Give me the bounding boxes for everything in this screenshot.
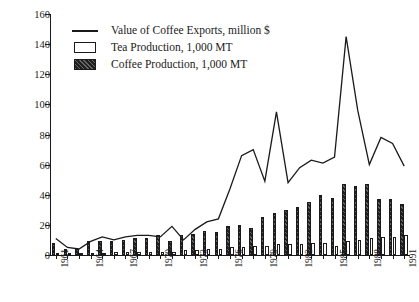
x-tick-label: 1988	[373, 249, 383, 268]
x-tick	[91, 255, 92, 259]
x-tick-label: 1991	[408, 249, 418, 268]
x-tick	[335, 255, 336, 259]
x-tick	[253, 255, 254, 259]
x-tick-label: 1970	[164, 249, 174, 268]
x-tick-label: 1964	[95, 249, 105, 268]
x-tick-label: 1967	[129, 249, 139, 268]
x-tick	[195, 255, 196, 259]
x-tick	[393, 255, 394, 259]
x-tick-label: 1979	[269, 249, 279, 268]
x-tick	[404, 255, 405, 259]
x-tick	[114, 255, 115, 259]
x-tick	[300, 255, 301, 259]
y-tick-label: 120	[34, 69, 50, 80]
x-tick-label: 1973	[199, 249, 209, 268]
legend-item-coffee-production: Coffee Production, 1,000 MT	[68, 56, 270, 73]
legend-item-coffee-exports: Value of Coffee Exports, million $	[68, 22, 270, 39]
legend-label-coffee-exports: Value of Coffee Exports, million $	[111, 22, 270, 39]
chart-legend: Value of Coffee Exports, million $ Tea P…	[68, 22, 270, 73]
y-tick-label: 60	[40, 159, 51, 170]
y-tick-label: 100	[34, 99, 50, 110]
x-tick-label: 1985	[339, 249, 349, 268]
y-tick-label: 140	[34, 39, 50, 50]
hatched-box-key-icon	[68, 59, 102, 70]
legend-item-tea-production: Tea Production, 1,000 MT	[68, 39, 270, 56]
y-tick-label: 80	[40, 129, 51, 140]
x-tick	[184, 255, 185, 259]
x-tick	[230, 255, 231, 259]
y-tick-label: 0	[45, 250, 50, 261]
x-tick	[288, 255, 289, 259]
legend-label-coffee-production: Coffee Production, 1,000 MT	[111, 56, 247, 73]
y-tick-label: 20	[40, 219, 51, 230]
x-tick-label: 1976	[234, 249, 244, 268]
x-tick-label: 1961	[60, 249, 70, 268]
line-key-icon	[68, 30, 102, 32]
open-box-key-icon	[68, 42, 102, 53]
x-tick	[369, 255, 370, 259]
y-tick-label: 40	[40, 189, 51, 200]
x-tick	[149, 255, 150, 259]
x-tick	[79, 255, 80, 259]
x-tick	[125, 255, 126, 259]
x-tick	[218, 255, 219, 259]
x-tick-label: 1982	[304, 249, 314, 268]
y-tick-label: 160	[34, 9, 50, 20]
x-tick	[323, 255, 324, 259]
x-tick	[56, 255, 57, 259]
chart-container: 1961196419671970197319761979198219851988…	[0, 0, 419, 302]
x-tick	[358, 255, 359, 259]
x-tick	[265, 255, 266, 259]
x-tick	[160, 255, 161, 259]
legend-label-tea-production: Tea Production, 1,000 MT	[111, 39, 233, 56]
